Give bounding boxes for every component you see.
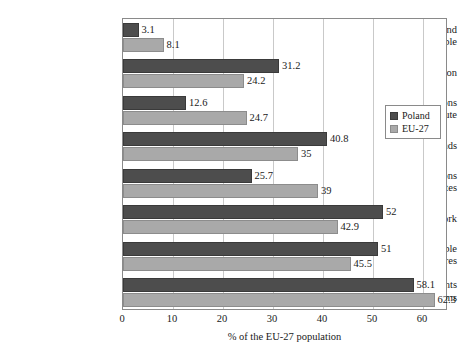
bar-value-label: 39: [318, 184, 332, 198]
bar-value-label: 52: [383, 205, 397, 219]
bar-eu27: [123, 293, 435, 307]
legend-swatch-poland-icon: [390, 112, 398, 120]
bar-value-label: 31.2: [279, 59, 300, 73]
legend-label-poland: Poland: [402, 110, 430, 121]
bar-value-label: 42.9: [338, 220, 359, 234]
chart-screenshot: Lifting and moving peopleVibrationRepeti…: [0, 0, 463, 352]
bar-poland: [123, 59, 279, 73]
gridline: [423, 19, 424, 309]
bar-value-label: 24.7: [247, 111, 268, 125]
bar-eu27: [123, 257, 351, 271]
bar-value-label: 40.8: [327, 132, 348, 146]
bar-eu27: [123, 184, 318, 198]
bar-value-label: 35: [298, 147, 312, 161]
bar-value-label: 24.2: [244, 74, 265, 88]
bar-poland: [123, 169, 252, 183]
x-tick-label: 40: [307, 313, 337, 324]
x-tick-label: 20: [207, 313, 237, 324]
chart-legend: Poland EU-27: [385, 105, 441, 139]
bar-poland: [123, 242, 378, 256]
bar-poland: [123, 96, 186, 110]
bar-eu27: [123, 38, 164, 52]
bar-poland: [123, 23, 139, 37]
legend-swatch-eu27-icon: [390, 125, 398, 133]
bar-value-label: 25.7: [252, 169, 273, 183]
bar-eu27: [123, 147, 298, 161]
bar-value-label: 62.3: [435, 293, 456, 307]
legend-item-poland: Poland: [390, 109, 436, 122]
x-tick-label: 50: [357, 313, 387, 324]
plot-area: 3.18.131.224.212.624.740.83525.7395242.9…: [122, 18, 447, 310]
x-tick-label: 10: [157, 313, 187, 324]
x-tick-label: 60: [407, 313, 437, 324]
bar-value-label: 8.1: [164, 38, 180, 52]
bar-eu27: [123, 74, 244, 88]
bar-poland: [123, 205, 383, 219]
bar-poland: [123, 132, 327, 146]
bar-eu27: [123, 220, 338, 234]
bar-poland: [123, 278, 414, 292]
legend-item-eu27: EU-27: [390, 122, 436, 135]
bar-eu27: [123, 111, 247, 125]
legend-label-eu27: EU-27: [402, 123, 429, 134]
x-tick-label: 30: [257, 313, 287, 324]
gridline: [373, 19, 374, 309]
bar-value-label: 51: [378, 242, 392, 256]
bar-value-label: 3.1: [139, 23, 155, 37]
bar-value-label: 58.1: [414, 278, 435, 292]
bar-value-label: 45.5: [351, 257, 372, 271]
bar-value-label: 12.6: [186, 96, 207, 110]
x-axis-title: % of the EU-27 population: [122, 331, 447, 342]
x-tick-label: 0: [107, 313, 137, 324]
